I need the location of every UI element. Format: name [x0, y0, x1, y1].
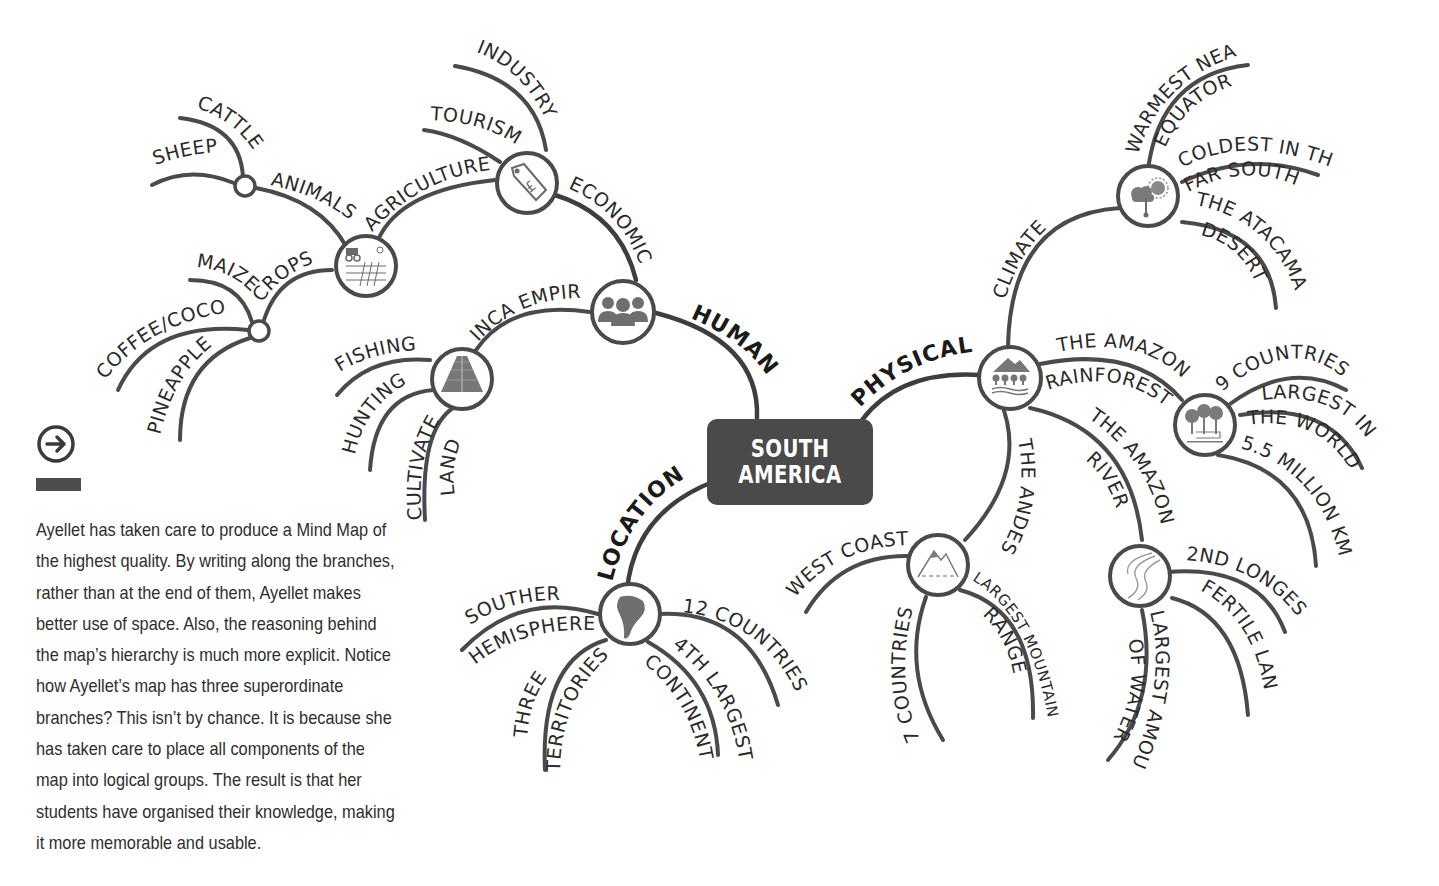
climate-node: [1118, 166, 1178, 226]
human-node: [592, 281, 654, 343]
branch-label-economic: ECONOMIC: [566, 172, 656, 267]
branch-label-climate: CLIMATE: [988, 215, 1050, 301]
branch-label-desert: DESERT: [1199, 218, 1272, 286]
people-group-icon: [598, 297, 648, 326]
agriculture-node: [336, 236, 396, 296]
branch-label-largest-mountain: LARGEST MOUNTAIN: [970, 568, 1062, 719]
crops-junction-dot: [249, 321, 269, 341]
section-divider-bar: [36, 478, 81, 491]
branch-label-sheep: SHEEP: [150, 134, 219, 169]
branch-label-territories: TERRITORIES: [542, 643, 612, 773]
branch-label-agriculture: AGRICULTURE: [359, 152, 492, 235]
branch-label-tourism: TOURISM: [429, 102, 526, 148]
river-node: [1110, 546, 1170, 606]
branch-label-coffee-cocoa: COFFEE/COCOA: [0, 0, 227, 382]
physical-node: [979, 347, 1041, 409]
location-node: [600, 584, 660, 644]
branch-label-industry: INDUSTRY: [475, 35, 562, 121]
branch-label-human: HUMAN: [688, 300, 783, 380]
branch-label-the-andes: THE ANDES: [996, 436, 1039, 559]
rainforest-node: [1175, 395, 1235, 455]
branch-label-west-coast: WEST COAST: [781, 527, 909, 601]
branch-label-physical: PHYSICAL: [846, 332, 975, 412]
branch-label-warmest: WARMEST NEAR: [0, 0, 1239, 156]
animals-junction-dot: [235, 176, 255, 196]
economic-node: £: [497, 153, 557, 213]
caption-text: Ayellet has taken care to produce a Mind…: [36, 514, 395, 858]
andes-node: [908, 535, 968, 595]
central-topic-line-1: SOUTH: [751, 436, 830, 462]
inca-empire-node: [432, 349, 492, 409]
arrow-right-circle-icon: [36, 424, 76, 464]
central-topic-line-2: AMERICA: [738, 462, 841, 488]
central-topic-box: SOUTH AMERICA: [707, 419, 873, 505]
branch-label-location: LOCATION: [593, 461, 689, 584]
branch-label-land: LAND: [435, 435, 464, 497]
branch-label-amazon-rainforest-2: RAINFOREST: [1043, 363, 1177, 410]
